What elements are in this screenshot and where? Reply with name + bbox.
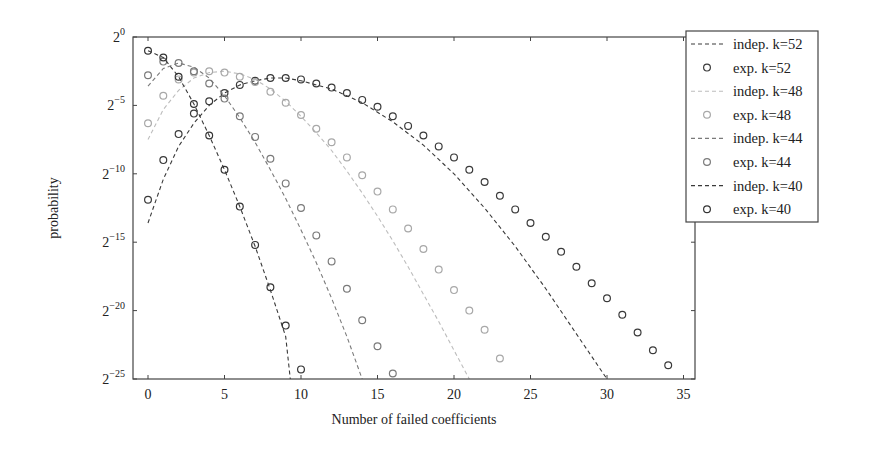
data-point	[588, 280, 595, 287]
data-point	[282, 322, 289, 329]
data-point	[282, 99, 289, 106]
data-point	[236, 73, 243, 80]
data-point	[282, 180, 289, 187]
data-point	[481, 326, 488, 333]
data-point	[435, 143, 442, 150]
legend: indep. k=52exp. k=52indep. k=48exp. k=48…	[686, 31, 818, 222]
legend-label: exp. k=48	[733, 107, 791, 123]
legend-label: exp. k=52	[733, 60, 791, 76]
data-point	[435, 266, 442, 273]
series-exp-k-52	[145, 75, 672, 369]
x-axis-label: Number of failed coefficients	[332, 412, 497, 427]
data-point	[389, 113, 396, 120]
data-point	[344, 285, 351, 292]
data-point	[481, 179, 488, 186]
data-point	[160, 92, 167, 99]
data-point	[420, 246, 427, 253]
data-point	[374, 343, 381, 350]
data-point	[221, 166, 228, 173]
data-point	[252, 134, 259, 141]
data-point	[405, 123, 412, 130]
data-point	[298, 76, 305, 83]
data-point	[313, 80, 320, 87]
legend-label: exp. k=44	[733, 154, 792, 170]
data-point	[405, 225, 412, 232]
data-point	[145, 196, 152, 203]
data-point	[145, 47, 152, 54]
data-point	[466, 307, 473, 314]
y-tick-label: 2−20	[102, 300, 125, 319]
legend-label: indep. k=48	[733, 83, 802, 99]
y-tick-label: 2−25	[102, 368, 125, 387]
data-point	[634, 329, 641, 336]
data-point	[145, 120, 152, 127]
y-axis-ticks: 202−52−102−152−202−25	[102, 26, 695, 387]
data-point	[175, 60, 182, 67]
indep-curve	[148, 51, 290, 379]
x-tick-label: 20	[447, 387, 461, 402]
data-point	[313, 232, 320, 239]
data-point	[359, 317, 366, 324]
data-point	[344, 154, 351, 161]
series-indep-k-44	[148, 63, 362, 379]
data-point	[313, 125, 320, 132]
data-point	[328, 139, 335, 146]
data-point	[650, 347, 657, 354]
indep-curve	[148, 71, 469, 379]
data-point	[267, 88, 274, 95]
data-point	[527, 220, 534, 227]
x-tick-label: 0	[145, 387, 152, 402]
x-tick-label: 35	[677, 387, 691, 402]
y-tick-label: 20	[113, 26, 125, 45]
data-point	[206, 98, 213, 105]
data-point	[298, 205, 305, 212]
data-point	[665, 362, 672, 369]
y-axis-label: probability	[46, 177, 61, 238]
x-tick-label: 15	[371, 387, 385, 402]
data-point	[145, 72, 152, 79]
data-point	[359, 97, 366, 104]
series-indep-k-48	[148, 71, 469, 379]
data-point	[497, 355, 504, 362]
indep-curve	[148, 63, 362, 379]
data-point	[374, 103, 381, 110]
data-point	[604, 295, 611, 302]
legend-label: exp. k=40	[733, 201, 791, 217]
series-exp-k-44	[145, 58, 397, 377]
y-tick-label: 2−15	[102, 231, 125, 250]
data-point	[359, 172, 366, 179]
data-point	[191, 110, 198, 117]
data-point	[374, 188, 381, 195]
data-point	[206, 80, 213, 87]
data-point	[267, 155, 274, 162]
series-exp-k-48	[145, 68, 504, 362]
data-point	[236, 113, 243, 120]
x-tick-label: 5	[221, 387, 228, 402]
data-point	[206, 68, 213, 75]
data-point	[542, 233, 549, 240]
series-indep-k-40	[148, 51, 290, 379]
legend-label: indep. k=52	[733, 36, 802, 52]
data-point	[466, 166, 473, 173]
y-tick-label: 2−10	[102, 163, 125, 182]
plot-area	[145, 47, 672, 379]
y-tick-label: 2−5	[107, 94, 125, 113]
x-tick-label: 30	[600, 387, 614, 402]
data-point	[451, 287, 458, 294]
data-point	[497, 192, 504, 199]
data-point	[221, 69, 228, 76]
legend-label: indep. k=40	[733, 178, 802, 194]
data-point	[328, 258, 335, 265]
data-point	[175, 131, 182, 138]
data-point	[389, 370, 396, 377]
plot-frame	[133, 37, 695, 379]
data-point	[389, 206, 396, 213]
data-point	[298, 112, 305, 119]
data-point	[451, 154, 458, 161]
data-point	[420, 132, 427, 139]
series-indep-k-52	[148, 78, 607, 379]
data-point	[573, 263, 580, 270]
data-point	[298, 366, 305, 373]
legend-label: indep. k=44	[733, 130, 803, 146]
indep-curve	[148, 78, 607, 379]
